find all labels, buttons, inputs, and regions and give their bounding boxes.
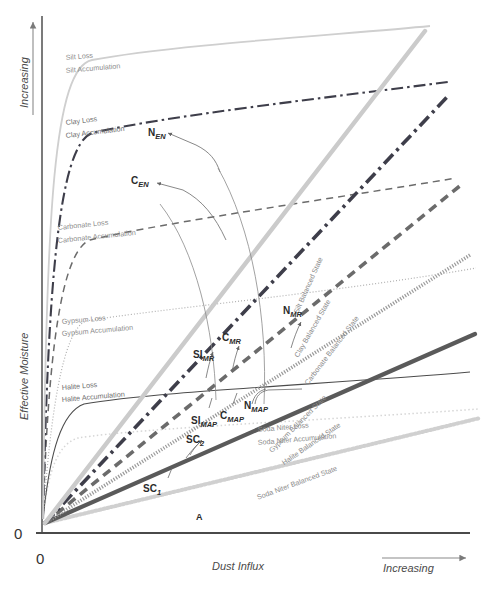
label-halite-accumulation: Halite Accumulation [61, 390, 125, 404]
leader-c-en [157, 183, 183, 190]
arc-mr-map [218, 168, 265, 404]
leader-c-en-tail [183, 190, 226, 240]
annotation-c-mr: CMR [222, 332, 241, 346]
annotation-c-en: CEN [131, 175, 149, 189]
effective-moisture-dust-influx-chart: 0 0 Increasing Effective Moisture Dust I… [0, 0, 488, 603]
annotation-c-map: CMAP [220, 410, 245, 424]
annotation-sc-2: SC2 [186, 434, 205, 448]
curve-clay-threshold [43, 82, 448, 519]
label-carbonate-loss: Carbonate Loss [57, 218, 109, 232]
line-clay-balanced-state [45, 95, 449, 523]
y-origin-label: 0 [14, 525, 22, 542]
y-axis-title: Effective Moisture [18, 333, 30, 420]
curve-carbonate-threshold [43, 178, 456, 519]
annotation-n-en: NEN [148, 127, 166, 141]
annotation-si-mr: SIMR [193, 349, 215, 363]
threshold-curve-labels: Silt Loss Silt Accumulation Clay Loss Cl… [57, 51, 336, 447]
leader-n-en-tail [196, 145, 220, 172]
label-gypsum-loss: Gypsum Loss [61, 313, 106, 326]
label-halite-loss: Halite Loss [61, 380, 98, 392]
label-silt-accumulation: Silt Accumulation [65, 61, 120, 75]
leader-si-map [209, 398, 212, 408]
annotation-n-map: NMAP [244, 400, 269, 414]
x-increasing-label: Increasing [383, 562, 435, 574]
line-silt-balanced-state [45, 31, 425, 523]
leader-n-en [168, 133, 196, 145]
panel-label: A [196, 512, 203, 522]
leader-n-map [255, 389, 302, 404]
x-origin-label: 0 [36, 550, 44, 567]
y-increasing-label: Increasing [18, 56, 30, 108]
label-clay-accumulation: Clay Accumulation [65, 124, 125, 140]
line-gypsum-balanced-state [45, 255, 470, 523]
label-clay-loss: Clay Loss [65, 114, 98, 127]
label-silt-balanced-state: Silt Balanced State [292, 256, 325, 315]
x-axis-title: Dust Influx [212, 560, 264, 572]
annotation-sc-1: SC1 [143, 483, 161, 497]
balanced-state-labels: Silt Balanced State Clay Balanced State … [256, 256, 361, 502]
